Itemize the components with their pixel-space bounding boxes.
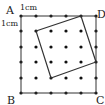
unit-label-left: 1cm	[1, 19, 19, 28]
grid-dot	[79, 76, 82, 79]
grid-dot	[49, 45, 52, 48]
grid-dot	[79, 60, 82, 63]
label-d: D	[97, 8, 105, 21]
label-a: A	[5, 4, 15, 17]
grid-dot	[64, 45, 67, 48]
grid-dot	[64, 76, 67, 79]
grid-dot	[34, 45, 37, 48]
grid-dot	[79, 45, 82, 48]
dot-grid	[19, 14, 97, 94]
grid-dot	[49, 29, 52, 32]
grid-dot	[34, 60, 37, 63]
grid-dot	[64, 29, 67, 32]
label-c: C	[96, 94, 104, 105]
label-b: B	[7, 94, 15, 105]
geometry-diagram: A D B C 1cm 1cm	[0, 0, 105, 105]
grid-dot	[34, 76, 37, 79]
grid-dot	[49, 60, 52, 63]
grid-dot	[64, 60, 67, 63]
unit-label-top: 1cm	[20, 3, 38, 12]
grid-dot	[79, 29, 82, 32]
